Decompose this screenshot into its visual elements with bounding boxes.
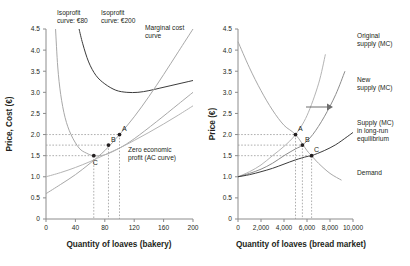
economics-figure: 00.51.01.52.02.53.03.54.04.5 04080120160… (0, 0, 410, 266)
data-point-label-C: C (93, 159, 98, 166)
new-supply-label-line1: New (357, 76, 370, 83)
zero-economic-profit-label-line1: Zero economic (128, 146, 172, 153)
left-data-points: ABC (92, 125, 127, 166)
x-tick-label: 8,000 (322, 224, 339, 231)
y-tick-label: 1.5 (31, 152, 40, 159)
right-guide-lines (238, 135, 312, 219)
long-run-supply-label-line1: Supply (MC) (357, 119, 394, 127)
right-y-ticks: 00.51.01.52.02.53.03.54.04.5 (223, 25, 238, 222)
right-x-axis-title: Quantity of loaves (bread market) (236, 240, 366, 249)
data-point-label-A: A (122, 125, 127, 132)
left-y-axis-title: Price, Cost (€) (5, 96, 14, 151)
isoprofit-200-label-line1: Isoprofit (101, 9, 125, 17)
y-tick-label: 3.5 (223, 68, 232, 75)
data-point-label-A: A (298, 125, 303, 132)
y-tick-label: 3.0 (223, 89, 232, 96)
long-run-supply-label-line3: equilibrium (357, 135, 389, 143)
y-tick-label: 0 (228, 215, 232, 222)
x-tick-label: 40 (72, 224, 80, 231)
y-tick-label: 2.0 (31, 131, 40, 138)
x-tick-label: 160 (158, 224, 169, 231)
marginal-cost-label-line1: Marginal cost (145, 24, 184, 32)
curve-demand (238, 42, 342, 180)
right-chart-svg: 00.51.01.52.02.53.03.54.04.5 02,0004,000… (205, 0, 410, 266)
curve-isoprofit-curve-200 (79, 29, 193, 93)
data-point-label-B: B (111, 136, 116, 143)
y-tick-label: 3.5 (31, 68, 40, 75)
curve-original-supply-mc (238, 54, 325, 176)
x-tick-label: 0 (44, 224, 48, 231)
y-tick-label: 0.5 (223, 194, 232, 201)
original-supply-label-line1: Original (357, 32, 380, 40)
long-run-supply-label-line2: in long-run (357, 127, 388, 135)
left-x-ticks: 04080120160200 (44, 219, 199, 231)
y-tick-label: 0 (36, 215, 40, 222)
data-point-label-B: B (305, 136, 310, 143)
x-tick-label: 80 (101, 224, 109, 231)
right-x-ticks: 02,0004,0006,0008,00010,000 (236, 219, 363, 231)
left-x-axis-title: Quantity of loaves (bakery) (66, 240, 171, 249)
x-tick-label: 10,000 (343, 224, 364, 231)
data-point-B (107, 143, 111, 147)
left-panel-bakery: 00.51.01.52.02.53.03.54.04.5 04080120160… (0, 0, 205, 266)
y-tick-label: 4.0 (31, 47, 40, 54)
new-supply-label-line2: supply (MC) (357, 84, 393, 92)
y-tick-label: 1.0 (31, 173, 40, 180)
curve-marginal-cost-curve (46, 29, 193, 194)
left-y-ticks: 00.51.01.52.02.53.03.54.04.5 (31, 25, 46, 222)
right-y-axis-title: Price (€) (208, 108, 217, 141)
y-tick-label: 1.5 (223, 152, 232, 159)
original-supply-label-line2: supply (MC) (357, 40, 393, 48)
right-curves (238, 42, 353, 180)
y-tick-label: 2.5 (31, 110, 40, 117)
isoprofit-80-label-line1: Isoprofit (57, 9, 81, 17)
isoprofit-200-label-line2: curve: €200 (101, 17, 136, 24)
data-point-label-C: C (314, 146, 319, 153)
right-data-points: ABC (294, 125, 320, 158)
y-tick-label: 0.5 (31, 194, 40, 201)
y-tick-label: 4.0 (223, 47, 232, 54)
data-point-A (118, 133, 122, 137)
right-panel-bread-market: 00.51.01.52.02.53.03.54.04.5 02,0004,000… (205, 0, 410, 266)
data-point-A (294, 133, 298, 137)
left-chart-svg: 00.51.01.52.02.53.03.54.04.5 04080120160… (0, 0, 205, 266)
y-tick-label: 4.5 (223, 25, 232, 32)
x-tick-label: 4,000 (276, 224, 293, 231)
data-point-C (310, 154, 314, 158)
x-tick-label: 2,000 (253, 224, 270, 231)
isoprofit-80-label-line2: curve: €80 (57, 17, 88, 24)
y-tick-label: 2.0 (223, 131, 232, 138)
demand-label: Demand (357, 169, 382, 176)
data-point-C (92, 154, 96, 158)
y-tick-label: 3.0 (31, 89, 40, 96)
y-tick-label: 4.5 (31, 25, 40, 32)
y-tick-label: 1.0 (223, 173, 232, 180)
x-tick-label: 0 (236, 224, 240, 231)
x-tick-label: 200 (187, 224, 198, 231)
zero-economic-profit-label-line2: profit (AC curve) (128, 154, 176, 162)
x-tick-label: 120 (129, 224, 140, 231)
y-tick-label: 2.5 (223, 110, 232, 117)
marginal-cost-label-line2: curve (145, 32, 161, 39)
x-tick-label: 6,000 (299, 224, 316, 231)
data-point-B (301, 143, 305, 147)
left-curves (46, 29, 193, 194)
